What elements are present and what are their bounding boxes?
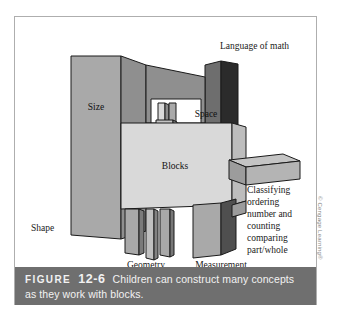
geometry-slat-3-side bbox=[170, 209, 174, 257]
label-language-of-math: Language of math bbox=[220, 41, 289, 51]
figure-caption-text: Figure12-6Children can construct many co… bbox=[25, 272, 308, 301]
label-space: Space bbox=[195, 109, 218, 119]
geometry-slat-3 bbox=[160, 209, 170, 257]
block-measurement bbox=[193, 199, 236, 258]
left-slab-front-face bbox=[71, 56, 121, 239]
label-classifying-line-6: part/whole bbox=[247, 245, 288, 255]
label-blocks: Blocks bbox=[162, 161, 189, 171]
label-shape: Shape bbox=[31, 223, 54, 233]
geometry-slat-2-side bbox=[154, 209, 158, 260]
label-classifying-line-1: Classifying bbox=[247, 185, 291, 195]
geometry-slat-1 bbox=[125, 209, 139, 255]
label-classifying-line-3: number and bbox=[247, 209, 292, 219]
geometry-slat-2 bbox=[146, 209, 154, 260]
block-right-shelf bbox=[229, 154, 300, 185]
caption-figure-label: Figure bbox=[25, 274, 71, 285]
label-classifying-line-4: counting bbox=[247, 221, 280, 231]
label-geometry: Geometry bbox=[127, 260, 165, 267]
label-classifying-line-2: ordering bbox=[247, 197, 279, 207]
figure-frame: Language of math Size Space Blocks Shape… bbox=[14, 16, 317, 305]
copyright-credit: © Cengage Learning® bbox=[317, 196, 323, 266]
caption-figure-number: 12-6 bbox=[78, 272, 105, 286]
block-diagram: Language of math Size Space Blocks Shape… bbox=[15, 17, 316, 267]
block-geometry-slats bbox=[125, 209, 174, 260]
geometry-slat-1-side bbox=[139, 209, 144, 255]
figure-page: Language of math Size Space Blocks Shape… bbox=[0, 0, 350, 330]
label-measurement: Measurement bbox=[195, 260, 247, 267]
label-size: Size bbox=[88, 102, 104, 112]
measurement-front-face bbox=[193, 203, 221, 258]
label-classifying-group: Classifying ordering number and counting… bbox=[247, 185, 292, 255]
figure-caption-bar: Figure12-6Children can construct many co… bbox=[15, 267, 316, 305]
block-diagram-svg: Language of math Size Space Blocks Shape… bbox=[15, 17, 316, 267]
label-classifying-line-5: comparing bbox=[247, 233, 288, 243]
